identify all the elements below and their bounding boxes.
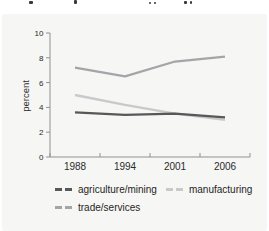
series-line-agriculture-mining bbox=[75, 112, 225, 117]
x-tick-label: 1994 bbox=[114, 161, 137, 172]
legend: agriculture/mining manufacturing trade/s… bbox=[55, 184, 265, 220]
legend-item-trade-services: trade/services bbox=[55, 202, 140, 213]
employment-sector-line-chart-figure: 02468101988199420012006 percent agricult… bbox=[0, 0, 269, 231]
y-tick-label: 10 bbox=[35, 29, 44, 38]
series-line-trade-services bbox=[75, 57, 225, 77]
x-tick-label: 1988 bbox=[64, 161, 87, 172]
y-tick-label: 8 bbox=[39, 54, 44, 63]
x-tick-label: 2001 bbox=[164, 161, 187, 172]
y-tick-label: 6 bbox=[39, 79, 44, 88]
y-tick-label: 2 bbox=[39, 128, 44, 137]
legend-row: trade/services bbox=[55, 202, 265, 213]
legend-label: trade/services bbox=[78, 202, 140, 213]
legend-item-agriculture-mining: agriculture/mining bbox=[55, 184, 157, 195]
legend-item-manufacturing: manufacturing bbox=[166, 184, 252, 195]
y-axis-title: percent bbox=[20, 66, 32, 126]
legend-swatch-manufacturing bbox=[166, 188, 184, 191]
x-tick-label: 2006 bbox=[214, 161, 237, 172]
legend-label: agriculture/mining bbox=[78, 184, 157, 195]
legend-label: manufacturing bbox=[189, 184, 252, 195]
legend-row: agriculture/mining manufacturing bbox=[55, 184, 265, 195]
y-tick-label: 4 bbox=[39, 103, 44, 112]
legend-swatch-agriculture-mining bbox=[55, 188, 73, 191]
legend-swatch-trade-services bbox=[55, 206, 73, 209]
y-tick-label: 0 bbox=[39, 153, 44, 162]
